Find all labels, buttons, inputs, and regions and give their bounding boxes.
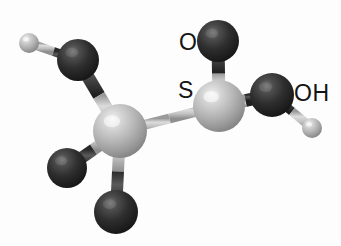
atom-sphere-c — [94, 190, 138, 234]
atom-c-central — [93, 104, 147, 158]
atom-sphere-c — [93, 104, 147, 158]
label-s: S — [178, 79, 194, 102]
atom-highlight — [23, 37, 29, 41]
atom-sphere-c — [57, 39, 99, 81]
atom-c-left-lower — [47, 148, 87, 188]
label-oh: OH — [294, 82, 330, 105]
atom-highlight — [104, 115, 120, 127]
atom-sphere-s — [193, 80, 245, 132]
atom-highlight — [259, 82, 272, 92]
atom-c-methyl — [57, 39, 99, 81]
atom-highlight — [103, 199, 116, 209]
atom-c-bottom — [94, 190, 138, 234]
atom-sphere-h — [19, 33, 39, 53]
atom-highlight — [205, 29, 218, 38]
atom-h-methyl — [19, 33, 39, 53]
molecule-canvas — [0, 0, 341, 246]
atom-sphere-o — [250, 73, 294, 117]
molecule-figure: OSOH — [0, 0, 341, 246]
atom-o-top — [197, 20, 239, 62]
atom-highlight — [306, 122, 312, 126]
atom-highlight — [55, 156, 67, 165]
atom-highlight — [65, 48, 78, 57]
atom-sphere-o — [197, 20, 239, 62]
atom-sphere-c — [47, 148, 87, 188]
atom-highlight — [203, 91, 219, 102]
atom-sphere-h — [302, 118, 322, 138]
atom-o-hydroxyl — [250, 73, 294, 117]
label-o-top: O — [179, 31, 197, 54]
atom-h-hydroxyl — [302, 118, 322, 138]
atom-s-center — [193, 80, 245, 132]
